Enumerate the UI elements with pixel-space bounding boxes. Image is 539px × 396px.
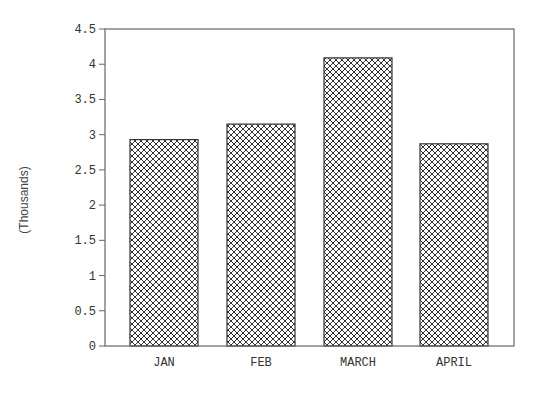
y-tick-label: 2.5 bbox=[74, 164, 96, 178]
bar-chart: 00.511.522.533.544.5 JANFEBMARCHAPRIL bbox=[0, 0, 539, 396]
x-tick-label-jan: JAN bbox=[153, 356, 175, 370]
bar-march bbox=[324, 58, 392, 346]
bars bbox=[130, 58, 488, 346]
y-tick-label: 4.5 bbox=[74, 23, 96, 37]
y-tick-label: 0 bbox=[89, 340, 96, 354]
y-tick-label: 2 bbox=[89, 199, 96, 213]
y-tick-label: 3 bbox=[89, 129, 96, 143]
y-tick-label: 1.5 bbox=[74, 234, 96, 248]
y-tick-label: 4 bbox=[89, 58, 96, 72]
x-tick-label-feb: FEB bbox=[250, 356, 272, 370]
bar-april bbox=[420, 144, 488, 346]
bar-jan bbox=[130, 140, 198, 346]
y-tick-label: 0.5 bbox=[74, 305, 96, 319]
x-tick-label-april: APRIL bbox=[436, 356, 472, 370]
y-tick-label: 3.5 bbox=[74, 93, 96, 107]
x-axis-labels: JANFEBMARCHAPRIL bbox=[153, 356, 472, 370]
x-tick-label-march: MARCH bbox=[340, 356, 376, 370]
y-tick-label: 1 bbox=[89, 270, 96, 284]
bar-feb bbox=[227, 124, 295, 346]
y-axis-ticks: 00.511.522.533.544.5 bbox=[74, 23, 105, 354]
